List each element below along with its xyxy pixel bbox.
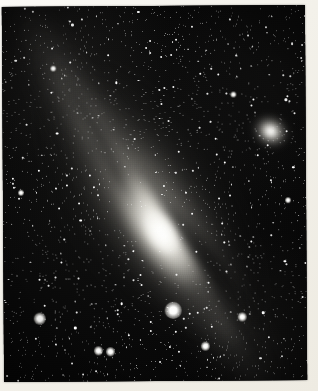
photograph: Andromeda Galaxy: [0, 0, 318, 391]
photographic-plate: [2, 5, 307, 382]
plate-vignette: [2, 5, 307, 382]
plate-image-area: [2, 5, 307, 382]
